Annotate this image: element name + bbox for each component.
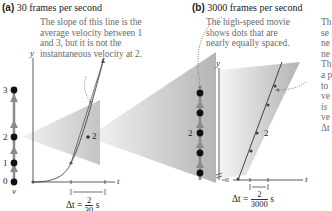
annotation-fragment: is: [321, 102, 332, 113]
graph-a-t-label: t: [117, 176, 120, 186]
motion-axis-label-v: v: [12, 186, 16, 196]
annotation-fragment: ne: [321, 38, 332, 49]
graph-b-point-label: 2: [264, 128, 269, 138]
graph-b-t-label: t: [305, 174, 308, 184]
panel-b-title: (b) 3000 frames per second: [192, 2, 303, 13]
delta-t-prefix: Δt =: [232, 194, 248, 204]
fraction-denominator: 30: [85, 206, 94, 211]
annotation-fragment: se: [321, 28, 332, 39]
magnification-cone-dot-to-graph-a: [22, 100, 100, 165]
annotation-fragment: Δt: [321, 123, 332, 134]
panel-b-side-annotation-fragment: Th se ne ne Th a p to ve is ve Δt: [321, 17, 332, 134]
graph-a-y-label: y: [30, 48, 34, 58]
delta-t-prefix: Δt =: [66, 200, 82, 210]
panel-a-title-text: 30 frames per second: [17, 2, 102, 13]
fraction-denominator: 3000: [251, 200, 268, 209]
panel-a-title: (a) 30 frames per second: [2, 2, 102, 13]
delta-t-a: Δt = 2 30 s: [66, 196, 99, 211]
motion-b-dot-label: 2: [188, 128, 193, 138]
delta-t-unit: s: [96, 200, 100, 210]
annotation-line: The high-speed movie: [206, 17, 290, 28]
panel-b-title-text: 3000 frames per second: [207, 2, 302, 13]
annotation-line: and 3, but it is not the: [40, 38, 142, 49]
annotation-line: shows dots that are: [206, 28, 290, 39]
panel-a-annotation: The slope of this line is the average ve…: [40, 17, 142, 59]
panel-a-label: (a): [2, 2, 14, 13]
delta-t-unit: s: [270, 194, 274, 204]
magnification-cone-a-to-b: [88, 52, 216, 183]
annotation-line: nearly equally spaced.: [206, 38, 290, 49]
annotation-fragment: ve: [321, 91, 332, 102]
dot-label-3: 3: [3, 85, 8, 95]
dot-label-0: 0: [3, 176, 8, 186]
delta-t-b: Δt = 2 3000 s: [232, 190, 274, 209]
graph-a-point-label: 2: [92, 131, 97, 141]
annotation-fragment: Th: [321, 59, 332, 70]
annotation-fragment: Th: [321, 17, 332, 28]
annotation-fragment: to: [321, 81, 332, 92]
annotation-line: The slope of this line is the: [40, 17, 142, 28]
annotation-fragment: ne: [321, 49, 332, 60]
motion-diagram-a: [10, 87, 18, 186]
dot-label-1: 1: [3, 158, 8, 168]
dot-label-2: 2: [3, 132, 8, 142]
annotation-line: average velocity between 1: [40, 28, 142, 39]
annotation-fragment: a p: [321, 70, 332, 81]
annotation-fragment: ve: [321, 112, 332, 123]
panel-b-annotation: The high-speed movie shows dots that are…: [206, 17, 290, 49]
annotation-line: instantaneous velocity at 2.: [40, 49, 142, 60]
delta-t-fraction: 2 3000: [251, 190, 268, 209]
graph-b-y-label: y: [216, 58, 220, 68]
panel-b-label: (b): [192, 2, 205, 13]
delta-t-fraction: 2 30: [85, 196, 94, 211]
